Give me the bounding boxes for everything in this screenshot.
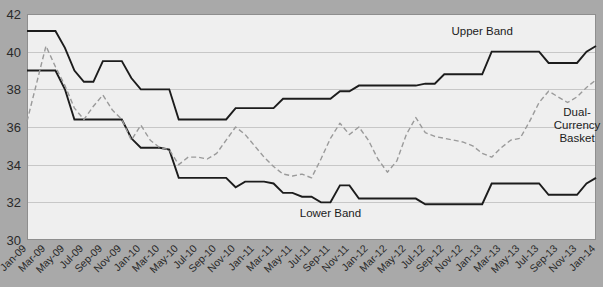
dual-currency-basket-label-line-2: Basket: [559, 132, 595, 144]
lower-band-label: Lower Band: [300, 207, 361, 219]
y-tick-36: 36: [7, 120, 21, 135]
dual-currency-basket-label-line-1: Currency: [554, 119, 601, 131]
chart-container: 42403836343230 Jan-09Mar-09May-09Jul-09S…: [0, 0, 603, 287]
line-chart: 42403836343230 Jan-09Mar-09May-09Jul-09S…: [0, 0, 603, 287]
y-tick-32: 32: [7, 195, 21, 210]
y-tick-40: 40: [7, 45, 21, 60]
y-tick-38: 38: [7, 82, 21, 97]
upper-band-label-line-0: Upper Band: [452, 25, 513, 37]
lower-band-label-line-0: Lower Band: [300, 207, 361, 219]
upper-band-label: Upper Band: [452, 25, 513, 37]
dual-currency-basket-label-line-0: Dual-: [563, 106, 591, 118]
y-tick-34: 34: [7, 158, 21, 173]
y-tick-42: 42: [7, 7, 21, 22]
